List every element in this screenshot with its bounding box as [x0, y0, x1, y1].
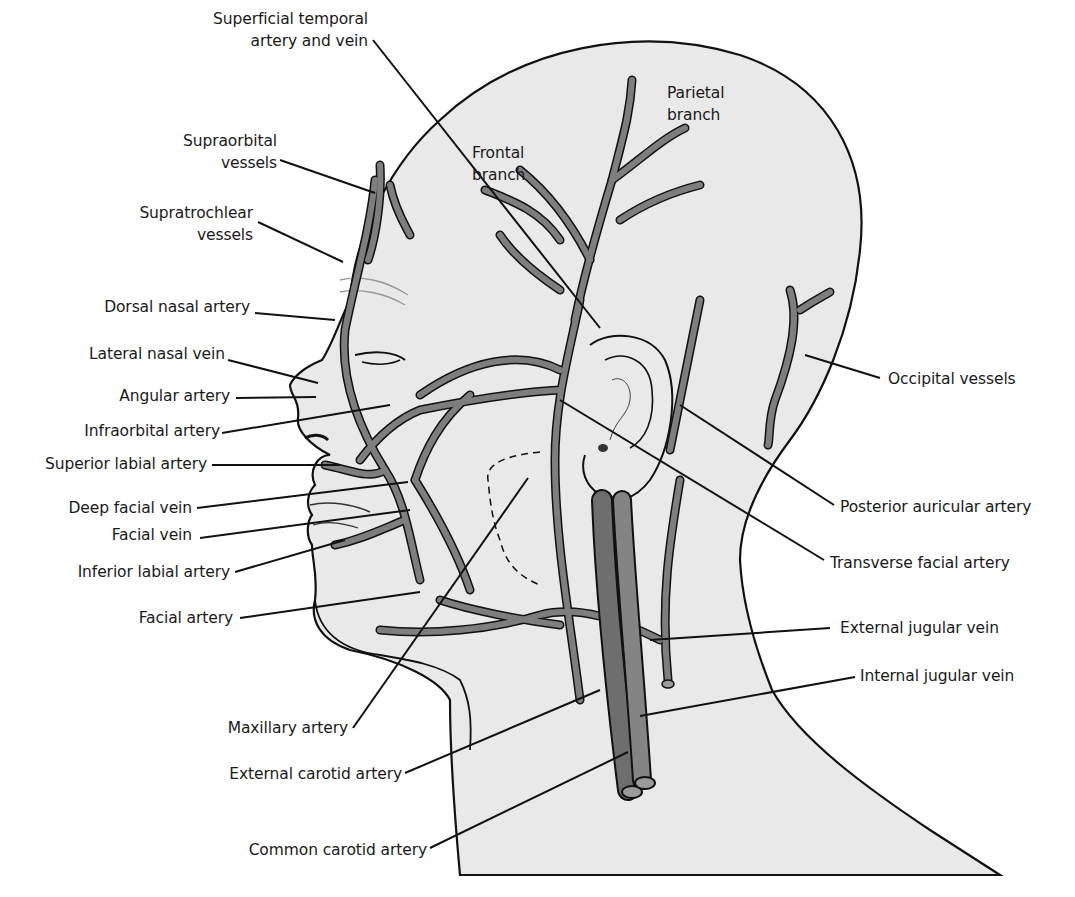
anatomy-illustration — [0, 0, 1075, 897]
label-superior-labial-artery: Superior labial artery — [45, 453, 207, 475]
label-infraorbital-artery: Infraorbital artery — [84, 420, 220, 442]
label-maxillary-artery: Maxillary artery — [228, 717, 348, 739]
label-external-carotid-artery: External carotid artery — [229, 763, 402, 785]
head-vessels-diagram: Superficial temporal artery and vein Par… — [0, 0, 1075, 897]
label-external-jugular-vein: External jugular vein — [840, 617, 999, 639]
label-lateral-nasal-vein: Lateral nasal vein — [89, 343, 225, 365]
label-supratrochlear: Supratrochlear vessels — [139, 202, 253, 246]
label-occipital-vessels: Occipital vessels — [888, 368, 1016, 390]
label-dorsal-nasal-artery: Dorsal nasal artery — [104, 296, 250, 318]
label-frontal-branch: Frontal branch — [472, 142, 525, 186]
label-angular-artery: Angular artery — [119, 385, 230, 407]
label-transverse-facial-artery: Transverse facial artery — [830, 552, 1010, 574]
label-deep-facial-vein: Deep facial vein — [68, 497, 192, 519]
label-inferior-labial-artery: Inferior labial artery — [78, 561, 230, 583]
label-facial-vein: Facial vein — [112, 524, 192, 546]
label-common-carotid-artery: Common carotid artery — [249, 839, 427, 861]
label-parietal-branch: Parietal branch — [667, 82, 724, 126]
label-facial-artery: Facial artery — [139, 607, 233, 629]
label-posterior-auricular-artery: Posterior auricular artery — [840, 496, 1031, 518]
label-internal-jugular-vein: Internal jugular vein — [860, 665, 1014, 687]
label-superficial-temporal: Superficial temporal artery and vein — [213, 8, 368, 52]
label-supraorbital: Supraorbital vessels — [183, 130, 277, 174]
